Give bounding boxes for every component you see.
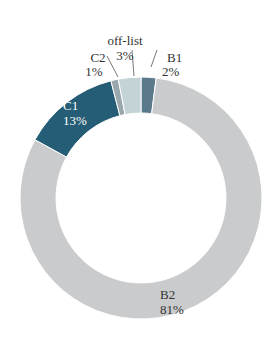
label-b1-name: B1 — [167, 50, 182, 65]
label-off-list-pct: 3% — [116, 48, 134, 63]
label-off-list-name: off-list — [107, 33, 143, 48]
donut-chart: off-list 3% C2 1% B1 2% C1 13% B2 81% — [0, 0, 279, 338]
label-c2-name: C2 — [90, 50, 105, 65]
label-c1-name: C1 — [63, 98, 78, 113]
donut-slices — [20, 77, 262, 319]
label-b2-pct: 81% — [160, 302, 184, 317]
label-c1-pct: 13% — [63, 113, 87, 128]
label-c2-pct: 1% — [85, 64, 103, 79]
leader-line-b1 — [151, 50, 157, 67]
label-b1-pct: 2% — [162, 64, 180, 79]
label-b2-name: B2 — [160, 287, 175, 302]
